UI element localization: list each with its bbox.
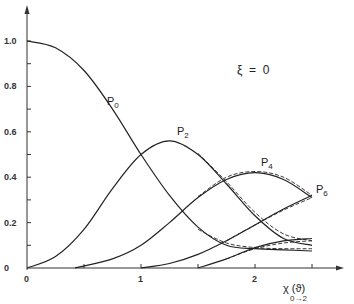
x-ticks: 012 — [24, 264, 312, 284]
curve-p2-dashed — [198, 153, 312, 240]
x-axis-arrow-icon — [336, 266, 344, 271]
y-axis-arrow-icon — [25, 5, 30, 14]
x-axis-label-sub: 0→2 — [290, 294, 307, 303]
y-tick-label: 0.4 — [4, 172, 17, 182]
y-tick-label: 0.6 — [4, 127, 17, 137]
curve-p4 — [75, 173, 312, 268]
curve-label-p0: P0 — [107, 95, 119, 110]
curve-label-p4: P4 — [261, 156, 273, 171]
xi-annotation: ξ = 0 — [237, 63, 270, 77]
curve-p8 — [198, 239, 312, 269]
curve-p6 — [141, 195, 312, 268]
x-tick-label: 0 — [24, 274, 29, 284]
x-tick-label: 1 — [138, 274, 143, 284]
y-tick-label: 0.2 — [4, 218, 17, 228]
y-tick-label: 0 — [4, 263, 9, 273]
y-tick-label: 0.8 — [4, 81, 17, 91]
legendre-polynomial-chart: 00.20.40.60.81.0 012 P0 P2 P4 P6 ξ = 0 χ… — [0, 0, 354, 304]
y-tick-label: 1.0 — [4, 36, 17, 46]
curve-label-p6: P6 — [316, 183, 328, 198]
curve-label-p2: P2 — [177, 125, 189, 140]
x-axis-label: χ (ϑ) — [283, 282, 305, 294]
x-tick-label: 2 — [252, 274, 257, 284]
curve-p4-dashed — [198, 172, 312, 197]
